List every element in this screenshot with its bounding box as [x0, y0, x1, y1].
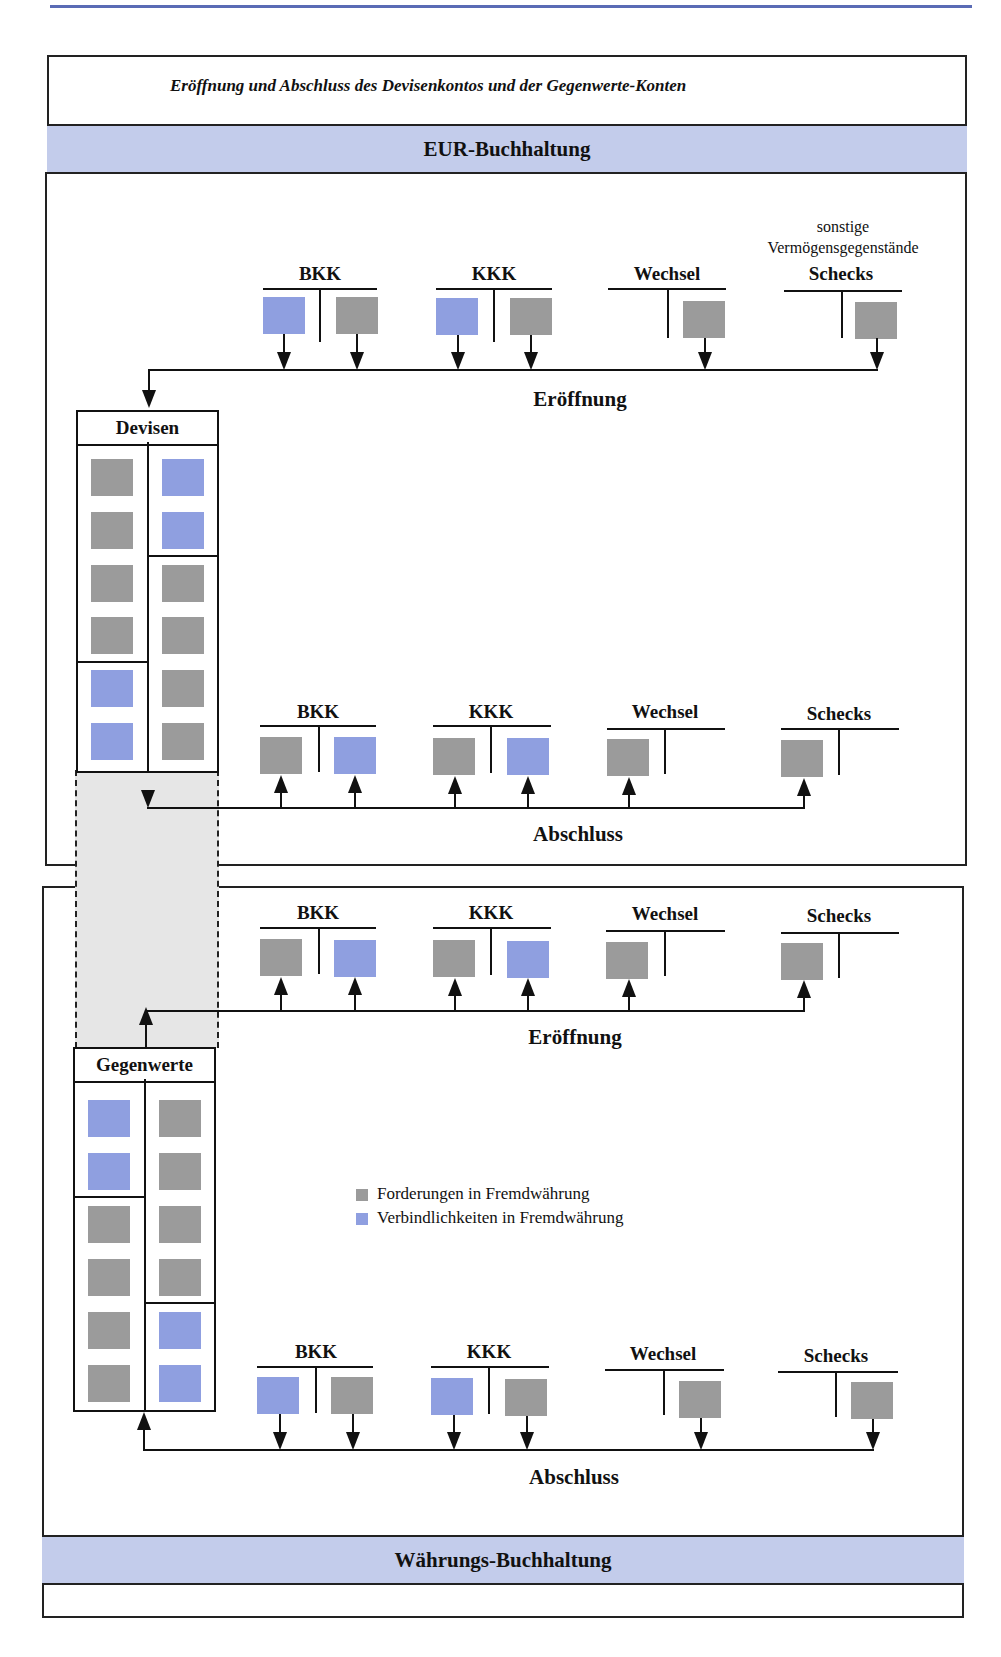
flow-line	[628, 792, 630, 808]
arrow-down-icon	[447, 1432, 461, 1450]
fx-section-label: Währungs-Buchhaltung	[394, 1548, 611, 1573]
fx-open-bkk-label: BKK	[297, 902, 339, 924]
liability-block	[88, 1100, 130, 1137]
flow-line	[147, 807, 805, 809]
flow-line	[354, 992, 356, 1011]
flow-line	[143, 1449, 874, 1451]
t-account-line	[318, 927, 320, 974]
legend-item-receivables: Forderungen in Fremdwährung	[356, 1182, 623, 1206]
fx-section-band: Währungs-Buchhaltung	[42, 1535, 964, 1585]
t-account-line	[319, 288, 321, 342]
t-account-line	[838, 728, 840, 775]
arrow-down-icon	[141, 790, 155, 808]
t-account-line	[144, 1079, 146, 1412]
t-account-line	[607, 728, 725, 730]
liability-block	[159, 1365, 201, 1402]
t-account-line	[147, 442, 149, 772]
receivable-block	[433, 940, 475, 977]
gegenwerte-title: Gegenwerte	[75, 1049, 214, 1083]
eur-close-schecks-label: Schecks	[807, 703, 871, 725]
arrow-up-icon	[137, 1412, 151, 1430]
eur-section-band: EUR-Buchhaltung	[47, 124, 967, 174]
fx-close-wechsel-label: Wechsel	[630, 1343, 697, 1365]
arrow-down-icon	[277, 352, 291, 370]
sonstige-label: sonstige Vermögensgegenstände	[767, 216, 918, 258]
divider	[144, 1302, 216, 1304]
t-account-line	[431, 1366, 549, 1368]
divider	[147, 555, 219, 557]
t-account-line	[490, 725, 492, 773]
fx-close-kkk-label: KKK	[467, 1341, 511, 1363]
arrow-up-icon	[139, 1007, 153, 1025]
flow-line	[145, 1010, 805, 1012]
flow-line	[803, 793, 805, 808]
devisen-title: Devisen	[78, 412, 217, 446]
receivable-block	[91, 565, 133, 602]
arrow-down-icon	[520, 1432, 534, 1450]
flow-line	[143, 1428, 145, 1450]
divider	[76, 661, 148, 663]
receivable-block	[91, 512, 133, 549]
fx-open-wechsel-label: Wechsel	[632, 903, 699, 925]
t-account-line	[784, 290, 902, 292]
liability-block	[436, 298, 478, 335]
receivable-block	[781, 943, 823, 980]
arrow-down-icon	[451, 352, 465, 370]
receivable-block	[606, 942, 648, 979]
t-account-line	[667, 288, 669, 338]
diagram-title: Eröffnung und Abschluss des Devisenkonto…	[170, 76, 686, 96]
t-account-line	[433, 725, 551, 727]
divider	[73, 1196, 145, 1198]
flow-line	[628, 994, 630, 1011]
fx-close-schecks-label: Schecks	[804, 1345, 868, 1367]
arrow-down-icon	[142, 390, 156, 408]
flow-line	[279, 1414, 281, 1434]
liability-block	[91, 670, 133, 707]
fx-open-phase-label: Eröffnung	[528, 1025, 621, 1050]
flow-line	[280, 992, 282, 1011]
eur-open-bkk-label: BKK	[299, 263, 341, 285]
liability-block	[162, 512, 204, 549]
flow-line	[280, 790, 282, 808]
receivable-block	[162, 723, 204, 760]
liability-block	[431, 1378, 473, 1415]
receivable-block	[162, 617, 204, 654]
gray-swatch-icon	[356, 1189, 368, 1201]
t-account-line	[664, 728, 666, 774]
fx-open-kkk-label: KKK	[469, 902, 513, 924]
flow-line	[148, 369, 878, 371]
receivable-block	[781, 740, 823, 777]
liability-block	[91, 723, 133, 760]
t-account-line	[778, 1371, 898, 1373]
t-account-line	[493, 288, 495, 342]
flow-line	[354, 790, 356, 808]
arrow-down-icon	[870, 352, 884, 370]
t-account-line	[433, 927, 551, 929]
t-account-line	[664, 930, 666, 976]
fx-bottom-box	[42, 1583, 964, 1618]
receivable-block	[159, 1100, 201, 1137]
t-account-line	[663, 1369, 665, 1415]
liability-block	[263, 297, 305, 334]
receivable-block	[162, 670, 204, 707]
eur-section-label: EUR-Buchhaltung	[424, 137, 591, 162]
receivable-block	[683, 301, 725, 338]
receivable-block	[159, 1206, 201, 1243]
fx-close-bkk-label: BKK	[295, 1341, 337, 1363]
flow-line	[454, 791, 456, 808]
liability-block	[507, 941, 549, 978]
receivable-block	[510, 298, 552, 335]
t-account-line	[318, 725, 320, 772]
receivable-block	[88, 1365, 130, 1402]
t-account-line	[781, 932, 899, 934]
blue-swatch-icon	[356, 1213, 368, 1225]
flow-line	[352, 1414, 354, 1434]
arrow-down-icon	[350, 352, 364, 370]
eur-open-schecks-label: Schecks	[809, 263, 873, 285]
liability-block	[159, 1312, 201, 1349]
receivable-block	[260, 939, 302, 976]
liability-block	[507, 738, 549, 775]
receivable-block	[331, 1377, 373, 1414]
liability-block	[88, 1153, 130, 1190]
receivable-block	[159, 1259, 201, 1296]
